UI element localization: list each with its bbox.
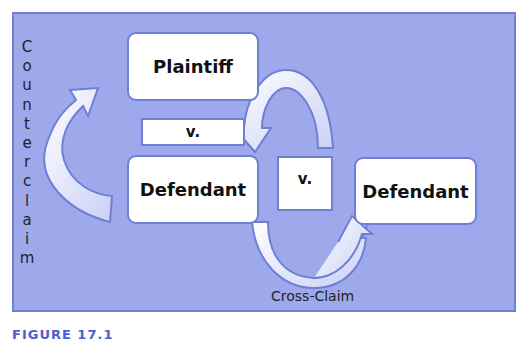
counterclaim-letter: i: [25, 230, 29, 249]
versus-label-middle: v.: [298, 170, 312, 188]
counterclaim-vertical-label: C o u n t e r c l a i m: [19, 38, 35, 268]
defendant-label-left: Defendant: [140, 179, 246, 200]
plaintiff-box: Plaintiff: [127, 32, 259, 101]
defendant-box-right: Defendant: [354, 157, 477, 225]
cross-claim-label: Cross-Claim: [271, 288, 354, 304]
counterclaim-letter: n: [22, 96, 32, 115]
counterclaim-letter: l: [25, 192, 29, 211]
counterclaim-letter: a: [22, 211, 31, 230]
counterclaim-letter: r: [24, 153, 30, 172]
counterclaim-letter: c: [23, 172, 31, 191]
counterclaim-letter: e: [22, 134, 31, 153]
versus-label-left: v.: [186, 123, 200, 141]
cross-claim-bottom-arrow-icon: [252, 216, 372, 288]
plaintiff-label: Plaintiff: [153, 56, 233, 77]
defendant-box-left: Defendant: [127, 155, 259, 224]
figure-caption: FIGURE 17.1: [12, 327, 113, 342]
counterclaim-letter: u: [22, 76, 32, 95]
versus-box-left: v.: [141, 118, 245, 146]
counterclaim-letter: o: [22, 57, 31, 76]
counterclaim-letter: m: [20, 249, 35, 268]
defendant-label-right: Defendant: [362, 181, 468, 202]
counterclaim-letter: C: [22, 38, 32, 57]
counterclaim-arrow-icon: [44, 88, 112, 222]
counterclaim-letter: t: [24, 115, 30, 134]
versus-box-middle: v.: [277, 156, 333, 211]
